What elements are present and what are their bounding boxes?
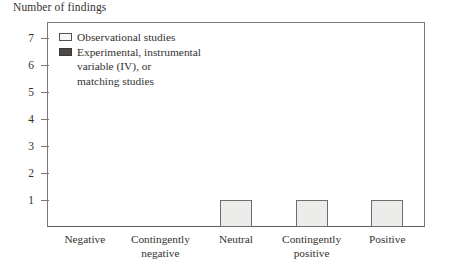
x-axis-tick-label: Negative xyxy=(64,233,105,247)
legend-item-observational: Observational studies xyxy=(59,30,201,44)
y-axis-tick xyxy=(41,119,49,120)
y-axis-tick-label: 3 xyxy=(16,140,34,152)
y-axis-tick-label: 2 xyxy=(16,167,34,179)
bar xyxy=(371,200,403,227)
y-axis-tick xyxy=(41,173,49,174)
x-axis-tick-label: Neutral xyxy=(219,233,253,247)
y-axis-tick xyxy=(41,200,49,201)
y-axis-tick-label: 7 xyxy=(16,32,34,44)
legend-label-experimental: Experimental, instrumental variable (IV)… xyxy=(77,45,201,88)
bar xyxy=(296,200,328,227)
x-axis-tick-label: Positive xyxy=(369,233,405,247)
y-axis-tick xyxy=(41,92,49,93)
y-axis-tick-label: 4 xyxy=(16,113,34,125)
legend: Observational studies Experimental, inst… xyxy=(59,30,201,89)
y-axis-tick xyxy=(41,146,49,147)
x-axis-tick-label: Contingently negative xyxy=(131,233,190,260)
y-axis-tick xyxy=(41,38,49,39)
y-axis-tick-label: 6 xyxy=(16,59,34,71)
dark-square-swatch-icon xyxy=(59,48,72,56)
bar-chart: Number of findings 1234567 NegativeConti… xyxy=(0,0,462,278)
bar xyxy=(220,200,252,227)
y-axis-tick xyxy=(41,65,49,66)
legend-label-observational: Observational studies xyxy=(77,30,175,44)
x-axis-tick-label: Contingently positive xyxy=(282,233,341,260)
y-axis-tick-label: 1 xyxy=(16,194,34,206)
y-axis-tick-label: 5 xyxy=(16,86,34,98)
chart-title: Number of findings xyxy=(13,1,106,13)
light-square-swatch-icon xyxy=(59,33,72,41)
legend-item-experimental: Experimental, instrumental variable (IV)… xyxy=(59,45,201,88)
